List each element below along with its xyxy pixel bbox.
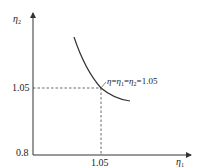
boundary-curve [74, 37, 130, 101]
x-axis-label-sub: 1 [181, 162, 184, 168]
y-axis-label-sub: 2 [18, 19, 21, 25]
x-tick-1-05: 1.05 [91, 158, 109, 168]
y-tick-0-8: 0.8 [16, 148, 29, 158]
chart-canvas [0, 0, 198, 168]
annotation-value: 1.05 [142, 76, 158, 86]
x-axis-label: η1 [176, 157, 184, 168]
y-axis-label: η2 [13, 14, 21, 27]
annotation-leader [101, 82, 106, 88]
curve-annotation: η=η1=η2=1.05 [107, 76, 157, 89]
y-tick-1-05: 1.05 [12, 83, 30, 93]
